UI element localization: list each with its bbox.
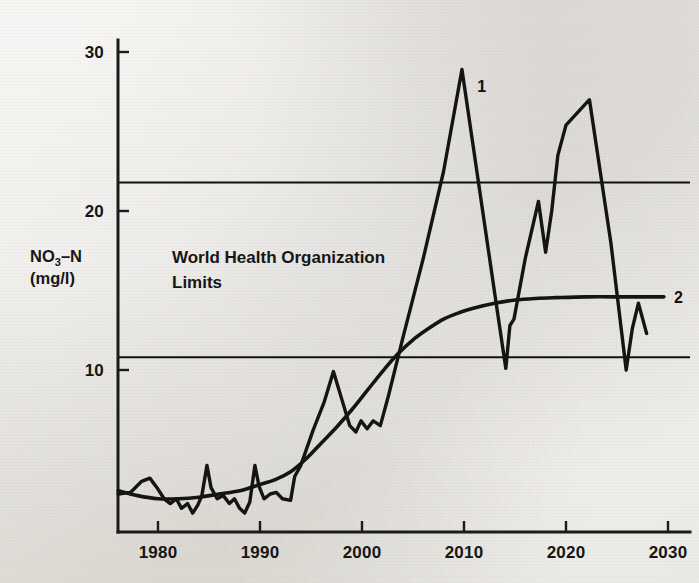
chart-canvas: 102030 198019902000201020202030 1 2 NO3–… (0, 0, 699, 583)
series-2-line (118, 297, 664, 499)
series-2-label: 2 (674, 289, 683, 306)
x-tick-label-2020: 2020 (547, 543, 586, 562)
y-axis-tick-labels: 102030 (85, 43, 104, 380)
y-axis-title-tail: –N (61, 247, 82, 265)
nitrate-trend-chart: 102030 198019902000201020202030 1 2 NO3–… (0, 0, 699, 583)
x-axis-ticks (158, 521, 668, 532)
y-axis-title-line1: NO3–N (30, 247, 82, 268)
x-tick-label-2000: 2000 (343, 543, 382, 562)
who-limits-line2: Limits (172, 273, 222, 292)
y-tick-label-30: 30 (85, 43, 104, 62)
y-axis-title-units: (mg/l) (30, 269, 75, 287)
who-limits-annotation: World Health Organization Limits (172, 248, 385, 292)
y-axis-title: NO3–N (mg/l) (30, 247, 82, 287)
x-tick-label-2010: 2010 (445, 543, 484, 562)
x-tick-label-1980: 1980 (139, 543, 178, 562)
x-axis-tick-labels: 198019902000201020202030 (139, 543, 688, 562)
series-1-label: 1 (477, 78, 486, 95)
y-tick-label-20: 20 (85, 202, 104, 221)
who-limits-line1: World Health Organization (172, 248, 385, 267)
y-tick-label-10: 10 (85, 361, 104, 380)
x-tick-label-2030: 2030 (649, 543, 688, 562)
y-axis-ticks (118, 52, 129, 370)
y-axis-title-formula: NO (30, 247, 55, 265)
x-tick-label-1990: 1990 (241, 543, 280, 562)
